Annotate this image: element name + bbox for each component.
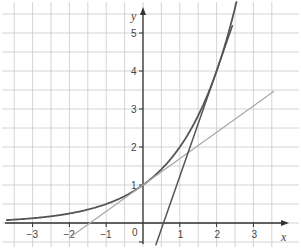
chart: x y −3−2−112312345 0	[0, 0, 301, 249]
origin-label: 0	[132, 227, 138, 238]
x-tick-label: 3	[251, 229, 257, 240]
y-axis: y	[130, 7, 146, 244]
y-axis-label: y	[130, 9, 137, 23]
x-tick-label: 1	[178, 229, 184, 240]
tangent-line	[69, 92, 273, 238]
x-axis-label: x	[280, 230, 287, 244]
y-tick-label: 5	[131, 28, 137, 39]
x-axis: x	[5, 220, 289, 244]
x-tick-label: −1	[100, 229, 112, 240]
tangent-line	[156, 26, 233, 245]
ticks: −3−2−112312345	[27, 28, 258, 242]
series	[7, 2, 274, 245]
y-axis-arrow-icon	[140, 7, 146, 15]
y-tick-label: 4	[131, 66, 137, 77]
x-tick-label: −3	[27, 229, 39, 240]
x-axis-arrow-icon	[281, 220, 289, 226]
y-tick-label: 3	[131, 104, 137, 115]
y-tick-label: 2	[131, 142, 137, 153]
grid-lines	[2, 2, 299, 247]
x-tick-label: 2	[215, 229, 221, 240]
